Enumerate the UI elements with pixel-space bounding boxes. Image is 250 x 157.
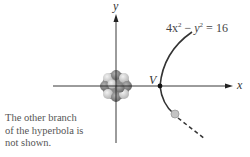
x-axis-label: x bbox=[237, 78, 242, 93]
equation-rhs: = 16 bbox=[203, 21, 228, 35]
y-axis-arrow-icon bbox=[114, 14, 119, 22]
equation-term-x: 4x bbox=[166, 21, 178, 35]
vertex-label: V bbox=[149, 73, 156, 88]
equation-minus: − bbox=[182, 21, 195, 35]
x-axis bbox=[53, 84, 233, 89]
x-axis-arrow-icon bbox=[225, 84, 233, 89]
vertex-point bbox=[158, 84, 163, 89]
caption-line-2: of the hyperbola is bbox=[5, 125, 105, 138]
caption-line-1: The other branch bbox=[5, 112, 105, 125]
hyperbola-branch bbox=[160, 32, 192, 114]
y-axis-label: y bbox=[113, 0, 118, 14]
particle-path-dashed bbox=[178, 118, 205, 139]
particle-icon bbox=[171, 110, 179, 118]
caption: The other branch of the hyperbola is not… bbox=[5, 112, 105, 150]
caption-line-3: not shown. bbox=[5, 137, 105, 150]
hyperbola-equation: 4x2 − y2 = 16 bbox=[166, 21, 228, 36]
